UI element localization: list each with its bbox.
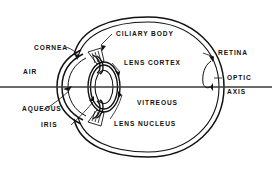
label-lens-cortex: LENS CORTEX <box>124 60 181 67</box>
label-ciliary-body: CILIARY BODY <box>116 31 174 38</box>
label-retina: RETINA <box>218 50 248 57</box>
label-optic: OPTIC <box>227 75 252 82</box>
label-air: AIR <box>23 69 37 76</box>
leader-ciliary-body <box>101 34 112 45</box>
eye-diagram-svg <box>0 0 272 173</box>
leader-arrowheads <box>63 45 214 101</box>
label-aqueous: AQUEOUS <box>22 106 62 113</box>
label-lens-nucleus: LENS NUCLEUS <box>114 121 176 128</box>
arrowhead-fovea <box>210 83 213 91</box>
label-cornea: CORNEA <box>34 45 68 52</box>
leader-retina <box>203 53 214 57</box>
label-axis: AXIS <box>227 89 246 96</box>
eye-cross-section-figure: CORNEA AIR AQUEOUS IRIS CILIARY BODY LEN… <box>0 0 272 173</box>
label-iris: IRIS <box>41 122 57 129</box>
label-vitreous: VITREOUS <box>137 100 178 107</box>
fovea-detail <box>203 61 211 88</box>
